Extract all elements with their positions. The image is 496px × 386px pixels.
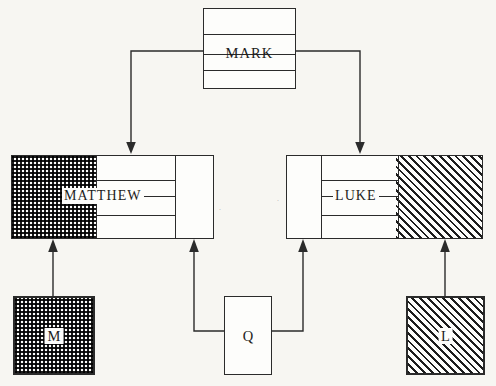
edge-m-to-matthew [48,239,58,296]
diagram-canvas: MARK MATTHEW LUKE M Q L [0,0,496,386]
luke-l-portion [396,156,482,238]
node-q-source-label: Q [240,328,256,344]
matthew-divider-2 [175,156,176,238]
edge-q-to-luke [272,239,308,331]
scan-speck: · [277,200,280,203]
matthew-rule-1 [96,180,175,181]
node-mark[interactable]: MARK [203,8,296,89]
luke-divider-1 [321,156,322,238]
edge-mark-to-matthew [126,51,203,154]
mark-rule-3 [204,70,295,71]
luke-rule-1 [321,180,398,181]
node-matthew-label: MATTHEW [62,188,144,204]
node-m-source[interactable]: M [13,296,95,375]
node-q-source[interactable]: Q [224,296,272,375]
edge-mark-to-luke [296,51,365,154]
matthew-rule-3 [96,215,175,216]
node-luke[interactable]: LUKE [286,155,483,239]
edge-l-to-luke [440,239,450,296]
luke-divider-2 [398,156,399,238]
node-mark-label: MARK [204,43,295,63]
node-luke-label: LUKE [333,188,379,204]
node-l-source-label: L [438,328,453,344]
node-matthew[interactable]: MATTHEW [11,155,214,239]
mark-rule-1 [204,34,295,35]
scan-speck: · [219,209,222,212]
node-l-source[interactable]: L [406,296,485,375]
node-m-source-label: M [45,328,64,344]
edge-q-to-matthew [189,239,224,331]
luke-rule-3 [321,215,398,216]
